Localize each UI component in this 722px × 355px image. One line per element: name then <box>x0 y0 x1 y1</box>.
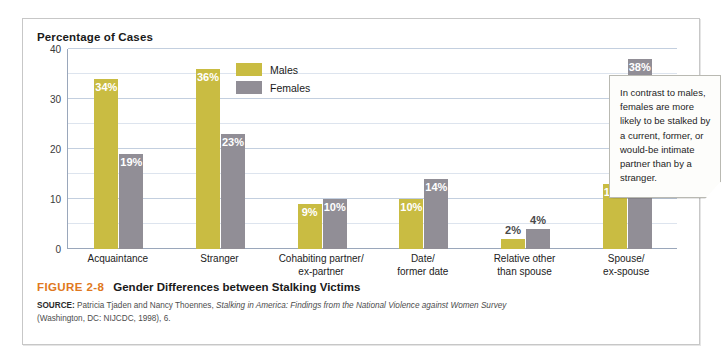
bar-value-label: 36% <box>196 72 220 83</box>
source-work-title-part2: Women Survey <box>450 301 506 310</box>
category-label-line: ex-partner <box>270 266 372 279</box>
figure-caption: FIGURE 2-8Gender Differences between Sta… <box>37 281 685 325</box>
x-axis-category-label: Relative otherthan spouse <box>474 253 576 278</box>
bar-value-label: 4% <box>526 215 550 226</box>
bar-males: 34% <box>94 79 118 249</box>
category-label-line: ex-spouse <box>575 266 677 279</box>
legend-item-males: Males <box>236 63 356 76</box>
category-label-line: Acquaintance <box>67 253 169 266</box>
category-label-line: former date <box>372 266 474 279</box>
bar-females: 19% <box>119 154 143 249</box>
bar-series-container: 34%19%36%23%9%10%10%14%2%4%13%38% <box>68 49 677 249</box>
category-label-line: Date/ <box>372 253 474 266</box>
source-label: SOURCE: <box>37 301 75 310</box>
x-axis-category-label: Date/former date <box>372 253 474 278</box>
bar-value-label: 14% <box>424 182 448 193</box>
y-axis-tick-label: 40 <box>37 44 61 55</box>
source-authors: Patricia Tjaden and Nancy Thoennes, <box>77 301 214 310</box>
bar-value-label: 34% <box>94 82 118 93</box>
y-axis-tick-label: 20 <box>37 144 61 155</box>
bar-value-label: 9% <box>298 207 322 218</box>
bar-value-label: 10% <box>399 202 423 213</box>
category-label-line: than spouse <box>474 266 576 279</box>
y-axis-tick-label: 30 <box>37 94 61 105</box>
legend-item-females: Females <box>236 81 356 94</box>
bar-females: 14% <box>424 179 448 249</box>
bar-value-label: 19% <box>119 157 143 168</box>
x-axis-category-label: Stranger <box>169 253 271 266</box>
x-axis-category-label: Spouse/ex-spouse <box>575 253 677 278</box>
y-axis-tick-label: 0 <box>37 244 61 255</box>
bar-value-label: 23% <box>221 137 245 148</box>
bar-females: 10% <box>323 199 347 249</box>
caption-headline: FIGURE 2-8Gender Differences between Sta… <box>37 281 685 293</box>
category-label-line: Cohabiting partner/ <box>270 253 372 266</box>
bar-males: 10% <box>399 199 423 249</box>
category-label-line: Spouse/ <box>575 253 677 266</box>
bar-group: 34%19% <box>94 49 143 249</box>
bar-group: 10%14% <box>399 49 448 249</box>
bar-females: 23% <box>221 134 245 249</box>
figure-panel: Percentage of Cases 010203040 34%19%36%2… <box>22 18 700 345</box>
figure-title: Gender Differences between Stalking Vict… <box>113 281 360 293</box>
legend-swatch-females-icon <box>236 81 262 94</box>
figure-number: FIGURE 2-8 <box>37 281 104 293</box>
x-axis-category-label: Acquaintance <box>67 253 169 266</box>
legend-label-males: Males <box>270 64 298 76</box>
bar-value-label: 10% <box>323 202 347 213</box>
category-label-line: Relative other <box>474 253 576 266</box>
legend-swatch-males-icon <box>236 63 262 76</box>
y-axis-tick-label: 10 <box>37 194 61 205</box>
x-axis-category-label: Cohabiting partner/ex-partner <box>270 253 372 278</box>
callout-annotation: In contrast to males, females are more l… <box>609 75 721 198</box>
bar-males: 9% <box>298 204 322 249</box>
bar-males: 2% <box>501 239 525 249</box>
figure-source: SOURCE: Patricia Tjaden and Nancy Thoenn… <box>37 300 542 325</box>
category-label-line: Stranger <box>169 253 271 266</box>
bar-value-label: 2% <box>501 225 525 236</box>
source-publication: (Washington, DC: NIJCDC, 1998), 6. <box>37 314 170 323</box>
bar-females: 4% <box>526 229 550 249</box>
chart-legend: Males Females <box>236 63 356 99</box>
chart-title: Percentage of Cases <box>37 31 153 43</box>
bar-value-label: 38% <box>628 62 652 73</box>
legend-label-females: Females <box>270 82 310 94</box>
bar-group: 2%4% <box>501 49 550 249</box>
plot-area: 010203040 34%19%36%23%9%10%10%14%2%4%13%… <box>37 49 677 264</box>
bar-males: 36% <box>196 69 220 249</box>
plot-canvas: 34%19%36%23%9%10%10%14%2%4%13%38% <box>67 49 677 249</box>
source-work-title-part1: Stalking in America: Findings from the N… <box>216 301 448 310</box>
